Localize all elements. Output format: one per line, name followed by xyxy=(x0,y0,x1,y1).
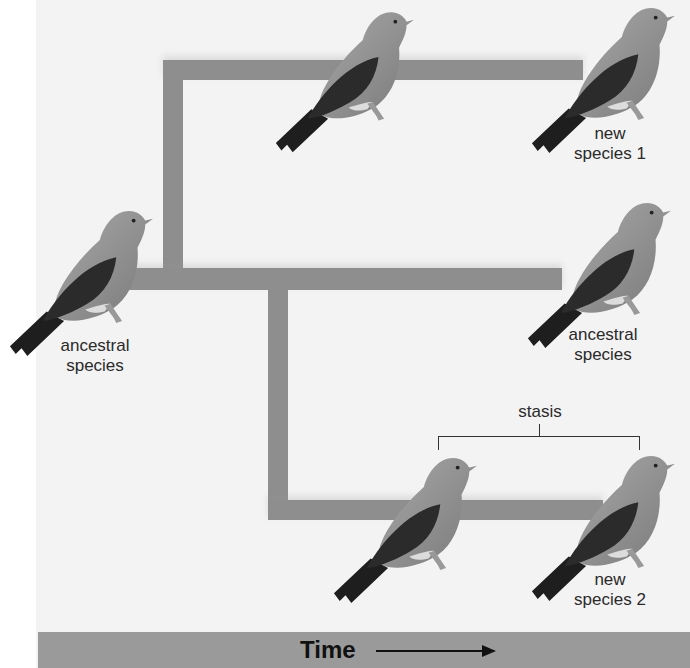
label-new-species-2-line2: species 2 xyxy=(555,590,665,610)
label-ancestral-left: ancestral species xyxy=(40,336,150,376)
label-ancestral-right-line1: ancestral xyxy=(548,325,658,345)
label-ancestral-right: ancestral species xyxy=(548,325,658,365)
stasis-label: stasis xyxy=(500,402,580,422)
label-ancestral-left-line2: species xyxy=(40,356,150,376)
label-new-species-2: new species 2 xyxy=(555,570,665,610)
bird-top-middle-icon xyxy=(274,2,414,157)
branch-lower-vertical xyxy=(268,288,288,520)
label-new-species-1-line2: species 1 xyxy=(555,144,665,164)
label-new-species-1-line1: new xyxy=(555,124,665,144)
time-axis-bar: Time xyxy=(38,632,690,668)
stasis-bracket-left xyxy=(438,436,439,450)
label-ancestral-right-line2: species xyxy=(548,345,658,365)
label-new-species-2-line1: new xyxy=(555,570,665,590)
bird-bottom-middle-icon xyxy=(332,450,477,605)
branch-top-vertical xyxy=(163,60,183,290)
label-new-species-1: new species 1 xyxy=(555,124,665,164)
stasis-bracket-right xyxy=(639,436,640,450)
bird-ancestral-left-icon xyxy=(8,203,153,358)
time-label: Time xyxy=(300,635,356,665)
stasis-bracket-stem xyxy=(539,424,540,436)
stasis-bracket-horizontal xyxy=(438,436,640,437)
label-ancestral-left-line1: ancestral xyxy=(40,336,150,356)
right-arrow-icon xyxy=(376,650,494,652)
branch-middle-horizontal xyxy=(112,268,562,290)
